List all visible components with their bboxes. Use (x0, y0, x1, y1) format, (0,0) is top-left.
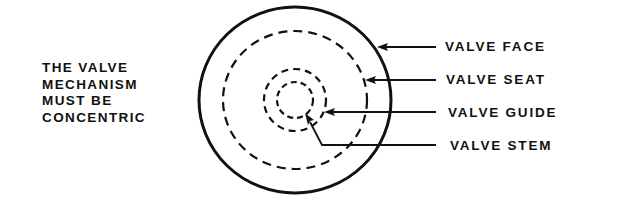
valve-stem-arrow (305, 113, 436, 145)
label-valve-face: VALVE FACE (445, 39, 546, 55)
valve-guide-circle (264, 69, 326, 131)
label-valve-seat: VALVE SEAT (446, 72, 546, 88)
valve-face-circle (199, 7, 391, 193)
label-valve-stem: VALVE STEM (450, 138, 552, 154)
valve-face-arrow (377, 43, 436, 51)
valve-seat-circle (223, 31, 367, 169)
valve-guide-arrow (324, 108, 436, 116)
valve-stem-circle (277, 82, 313, 118)
label-valve-guide: VALVE GUIDE (448, 105, 557, 121)
valve-seat-arrow (365, 76, 436, 84)
